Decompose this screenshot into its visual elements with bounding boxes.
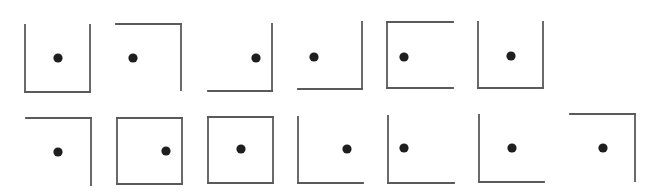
figure-2 bbox=[116, 24, 181, 90]
figure-5 bbox=[387, 22, 453, 88]
figure-7 bbox=[26, 118, 91, 185]
figure-4 bbox=[298, 22, 362, 89]
figure-10 bbox=[298, 117, 363, 183]
figure-12 bbox=[479, 115, 544, 182]
figure-9 bbox=[208, 117, 273, 183]
figure-1 bbox=[25, 25, 90, 92]
dot-icon bbox=[128, 53, 137, 62]
dot-icon bbox=[342, 144, 351, 153]
figure-6 bbox=[478, 22, 543, 88]
dot-icon bbox=[161, 146, 170, 155]
dot-icon bbox=[399, 143, 408, 152]
dot-icon bbox=[251, 53, 260, 62]
dot-icon bbox=[399, 52, 408, 61]
figures-group bbox=[25, 22, 635, 185]
figure-11 bbox=[388, 116, 454, 183]
figure-sequence-diagram bbox=[0, 0, 657, 195]
figure-13 bbox=[570, 114, 635, 181]
dot-icon bbox=[236, 144, 245, 153]
dot-icon bbox=[598, 143, 607, 152]
dot-icon bbox=[53, 53, 62, 62]
dot-icon bbox=[309, 52, 318, 61]
figure-3 bbox=[208, 24, 272, 91]
dot-icon bbox=[53, 147, 62, 156]
figure-8 bbox=[117, 118, 182, 184]
dot-icon bbox=[506, 51, 515, 60]
dot-icon bbox=[507, 143, 516, 152]
